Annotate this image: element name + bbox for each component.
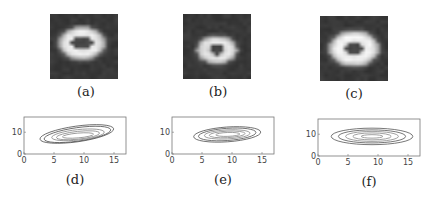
ring-image-c (320, 16, 388, 81)
x-tick-label: 0 (169, 156, 174, 165)
y-tick-label: 10 (306, 130, 316, 139)
plot-frame (24, 117, 126, 154)
y-tick-label: 0 (311, 152, 316, 161)
caption-f: (f) (349, 174, 389, 189)
x-tick-label: 0 (315, 158, 320, 167)
plot-frame (172, 117, 274, 154)
x-tick-label: 15 (403, 158, 413, 167)
caption-e: (e) (203, 172, 243, 187)
caption-d: (d) (55, 172, 95, 187)
caption-c: (c) (334, 86, 374, 101)
x-tick-label: 5 (199, 156, 204, 165)
contour-plot-d: 051015010 (8, 112, 132, 168)
contour-plot-e: 051015010 (156, 112, 280, 168)
ring-image-a (50, 14, 118, 79)
x-tick-label: 10 (373, 158, 383, 167)
ring-image-b (183, 14, 251, 79)
y-tick-label: 10 (12, 128, 22, 137)
caption-b: (b) (198, 84, 238, 99)
x-tick-label: 15 (109, 156, 119, 165)
x-tick-label: 15 (257, 156, 267, 165)
x-tick-label: 10 (79, 156, 89, 165)
x-tick-label: 10 (227, 156, 237, 165)
x-tick-label: 5 (345, 158, 350, 167)
caption-a: (a) (66, 84, 106, 99)
x-tick-label: 5 (51, 156, 56, 165)
y-tick-label: 0 (17, 150, 22, 159)
contour-plot-f: 051015010 (302, 114, 426, 170)
y-tick-label: 0 (165, 150, 170, 159)
x-tick-label: 0 (21, 156, 26, 165)
y-tick-label: 10 (160, 128, 170, 137)
